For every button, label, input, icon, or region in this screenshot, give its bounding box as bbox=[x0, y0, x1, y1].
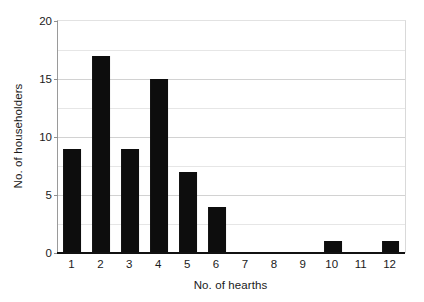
bar-band bbox=[376, 21, 405, 253]
y-tick-label: 20 bbox=[39, 15, 52, 27]
plot-area: 05101520 bbox=[57, 20, 406, 253]
x-tick-label-9: 9 bbox=[288, 256, 317, 272]
bar-band bbox=[289, 21, 318, 253]
bar-band bbox=[58, 21, 87, 253]
bar-5[interactable] bbox=[179, 172, 197, 253]
x-tick-label-5: 5 bbox=[173, 256, 202, 272]
bar-6[interactable] bbox=[208, 207, 226, 253]
bar-2[interactable] bbox=[92, 56, 110, 253]
x-axis-tick-labels: 123456789101112 bbox=[57, 256, 404, 274]
y-tick-label: 5 bbox=[46, 189, 52, 201]
x-tick-label-6: 6 bbox=[202, 256, 231, 272]
bar-3[interactable] bbox=[121, 149, 139, 253]
bar-band bbox=[145, 21, 174, 253]
x-tick-label-12: 12 bbox=[375, 256, 404, 272]
bar-band bbox=[116, 21, 145, 253]
y-axis-title: No. of householders bbox=[10, 20, 26, 252]
bar-band bbox=[203, 21, 232, 253]
x-tick-label-4: 4 bbox=[144, 256, 173, 272]
bar-band bbox=[87, 21, 116, 253]
x-tick-label-11: 11 bbox=[346, 256, 375, 272]
bar-1[interactable] bbox=[63, 149, 81, 253]
x-tick-label-1: 1 bbox=[57, 256, 86, 272]
x-axis-line bbox=[57, 252, 405, 254]
x-tick-label-8: 8 bbox=[259, 256, 288, 272]
bar-band bbox=[318, 21, 347, 253]
y-tick-label: 15 bbox=[39, 73, 52, 85]
x-tick-label-7: 7 bbox=[231, 256, 260, 272]
bar-band bbox=[174, 21, 203, 253]
bar-chart-figure: No. of householders 05101520 12345678910… bbox=[0, 0, 424, 302]
bar-band bbox=[260, 21, 289, 253]
y-tick-label: 10 bbox=[39, 131, 52, 143]
bar-4[interactable] bbox=[150, 79, 168, 253]
x-tick-label-10: 10 bbox=[317, 256, 346, 272]
x-tick-label-3: 3 bbox=[115, 256, 144, 272]
x-tick-label-2: 2 bbox=[86, 256, 115, 272]
bar-band bbox=[347, 21, 376, 253]
x-axis-title: No. of hearths bbox=[57, 279, 404, 291]
bar-band bbox=[232, 21, 261, 253]
y-tick-label: 0 bbox=[46, 247, 52, 259]
bars-layer bbox=[58, 21, 405, 253]
